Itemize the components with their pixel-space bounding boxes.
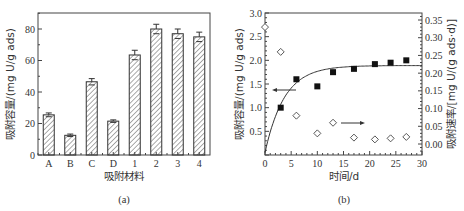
svg-text:60: 60 — [25, 55, 35, 66]
bar — [194, 32, 205, 155]
svg-text:0.10: 0.10 — [425, 103, 443, 114]
svg-text:1: 1 — [132, 158, 137, 169]
diamond-marker — [403, 133, 410, 140]
diamond-marker — [330, 119, 337, 126]
left-arrow-icon — [272, 88, 296, 92]
svg-text:0.35: 0.35 — [425, 15, 443, 26]
bar — [86, 79, 97, 155]
svg-text:0: 0 — [263, 158, 268, 169]
diamond-marker — [387, 135, 394, 142]
x-axis-ticks: 051015202530 — [263, 151, 428, 169]
svg-text:A: A — [45, 158, 53, 169]
svg-text:80: 80 — [25, 24, 35, 35]
square-marker — [330, 69, 336, 75]
y-axis-label: 吸附容量/(mg U/g ads) — [4, 28, 16, 140]
svg-text:0.30: 0.30 — [425, 32, 443, 43]
bars — [43, 24, 205, 155]
svg-text:2.0: 2.0 — [250, 55, 263, 66]
plot-frame — [265, 13, 422, 155]
right-y-axis-label: 吸附速率/[mg U/(g ads·d)] — [445, 19, 457, 149]
figure: 020406080 ABCD1234 吸附容量/(mg U/g ads) 吸附材… — [0, 0, 464, 211]
svg-text:0.5: 0.5 — [250, 126, 263, 137]
svg-text:3.0: 3.0 — [250, 8, 263, 19]
square-marker — [388, 60, 394, 66]
svg-text:0.05: 0.05 — [425, 121, 443, 132]
rate-points — [262, 24, 410, 143]
svg-text:40: 40 — [25, 87, 35, 98]
svg-text:10: 10 — [312, 158, 322, 169]
svg-text:D: D — [110, 158, 117, 169]
svg-text:20: 20 — [365, 158, 375, 169]
diamond-marker — [314, 130, 321, 137]
svg-text:B: B — [67, 158, 74, 169]
svg-text:1.0: 1.0 — [250, 102, 263, 113]
svg-text:5: 5 — [289, 158, 294, 169]
svg-text:1.5: 1.5 — [250, 79, 263, 90]
svg-text:0: 0 — [30, 150, 35, 161]
svg-text:0.00: 0.00 — [425, 139, 443, 150]
bar — [65, 134, 76, 155]
diamond-marker — [350, 134, 357, 141]
diamond-marker — [293, 112, 300, 119]
bar — [129, 50, 140, 155]
svg-text:15: 15 — [339, 158, 349, 169]
square-marker — [403, 57, 409, 63]
plot-frame — [38, 13, 210, 155]
svg-text:30: 30 — [417, 158, 427, 169]
svg-text:0.25: 0.25 — [425, 50, 443, 61]
square-marker — [278, 105, 284, 111]
y-axis-ticks: 020406080 — [25, 13, 42, 160]
diamond-marker — [371, 136, 378, 143]
square-marker — [293, 76, 299, 82]
x-axis-label: 吸附材料 — [104, 170, 145, 182]
bar — [172, 29, 183, 155]
diamond-marker — [277, 48, 284, 55]
capacity-points — [278, 57, 410, 110]
svg-text:4: 4 — [197, 158, 202, 169]
svg-text:0.20: 0.20 — [425, 68, 443, 79]
bar — [43, 113, 54, 155]
square-marker — [351, 66, 357, 72]
diamond-marker — [262, 24, 269, 31]
caption-b: (b) — [338, 194, 351, 206]
caption-a: (a) — [118, 194, 130, 206]
bar — [151, 24, 162, 155]
bar-chart-a: 020406080 ABCD1234 吸附容量/(mg U/g ads) 吸附材… — [4, 13, 210, 206]
svg-text:C: C — [88, 158, 95, 169]
svg-text:0.15: 0.15 — [425, 85, 443, 96]
right-arrow-icon — [341, 121, 365, 125]
svg-text:3: 3 — [175, 158, 180, 169]
square-marker — [314, 83, 320, 89]
bar — [108, 120, 119, 155]
left-y-axis-label: 吸附容量/(mg U/g ads) — [233, 28, 245, 140]
svg-text:2.5: 2.5 — [250, 31, 263, 42]
square-marker — [372, 61, 378, 67]
svg-text:2: 2 — [154, 158, 159, 169]
fit-curve — [265, 66, 422, 153]
scatter-chart-b: 0.51.01.52.02.53.0 0.000.050.100.150.200… — [233, 8, 457, 207]
svg-text:25: 25 — [391, 158, 401, 169]
x-axis-label: 时间/d — [329, 170, 359, 182]
svg-text:20: 20 — [25, 118, 35, 129]
